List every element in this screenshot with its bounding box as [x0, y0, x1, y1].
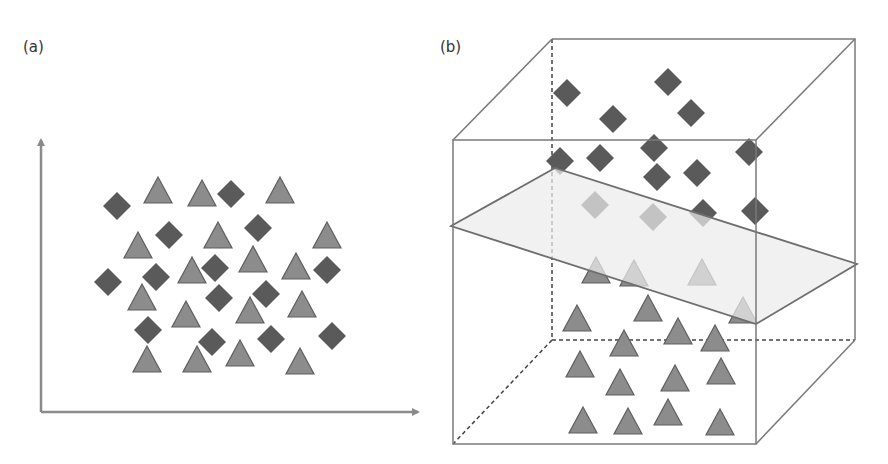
triangle-marker — [654, 399, 682, 425]
cube-edge — [756, 340, 855, 444]
diamond-marker — [654, 68, 682, 96]
triangle-marker — [133, 346, 161, 372]
triangle-marker — [144, 177, 172, 203]
diamond-marker — [134, 316, 162, 344]
triangle-marker — [286, 348, 314, 374]
triangle-marker — [288, 291, 316, 317]
diamond-marker — [553, 79, 581, 107]
diamond-marker — [586, 144, 614, 172]
triangle-marker — [569, 407, 597, 433]
triangle-marker — [266, 177, 294, 203]
diamond-marker — [735, 138, 763, 166]
triangle-marker — [124, 232, 152, 258]
diagram-canvas — [0, 0, 888, 464]
diamond-marker — [741, 197, 769, 225]
diamond-marker — [318, 322, 346, 350]
triangle-marker — [172, 301, 200, 327]
triangle-marker — [204, 222, 232, 248]
triangle-marker — [661, 365, 689, 391]
panel-a-axes — [41, 140, 418, 412]
triangle-marker — [282, 253, 310, 279]
diamond-marker — [201, 254, 229, 282]
diamond-marker — [94, 268, 122, 296]
hyperplane-surface — [451, 168, 857, 324]
diamond-marker — [677, 99, 705, 127]
panel-a-scatter — [41, 140, 418, 412]
triangle-marker — [634, 295, 662, 321]
triangle-marker — [610, 330, 638, 356]
triangle-marker — [566, 351, 594, 377]
triangle-marker — [188, 180, 216, 206]
diamond-marker — [640, 134, 668, 162]
cube-edge — [756, 39, 855, 140]
hidden-edge — [453, 340, 552, 444]
panel-a-points — [94, 177, 346, 374]
diamond-marker — [217, 180, 245, 208]
triangle-marker — [128, 284, 156, 310]
diamond-marker — [643, 163, 671, 191]
diamond-marker — [155, 221, 183, 249]
panel-b-3d-space — [451, 39, 857, 444]
triangle-marker — [606, 369, 634, 395]
diamond-marker — [257, 325, 285, 353]
triangle-marker — [664, 318, 692, 344]
triangle-marker — [614, 408, 642, 434]
diamond-marker — [252, 280, 280, 308]
triangle-marker — [706, 409, 734, 435]
diamond-marker — [142, 263, 170, 291]
triangle-marker — [701, 325, 729, 351]
diamond-marker — [198, 328, 226, 356]
class-2-points-below-plane — [563, 295, 735, 435]
diamond-marker — [599, 105, 627, 133]
triangle-marker — [563, 305, 591, 331]
cube-edge — [453, 39, 552, 140]
triangle-marker — [226, 340, 254, 366]
diamond-marker — [205, 284, 233, 312]
triangle-marker — [178, 257, 206, 283]
diamond-marker — [313, 256, 341, 284]
triangle-marker — [707, 358, 735, 384]
triangle-marker — [239, 246, 267, 272]
diamond-marker — [103, 192, 131, 220]
triangle-marker — [313, 222, 341, 248]
separating-hyperplane — [451, 168, 857, 324]
diamond-marker — [244, 214, 272, 242]
diamond-marker — [683, 159, 711, 187]
